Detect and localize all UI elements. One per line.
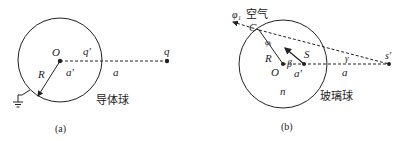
source-point xyxy=(302,62,306,66)
angle-out-label: φ₁ xyxy=(232,9,241,20)
diagram-canvas: O q' q R a' a 导体球 (a) φ₁ 空气 C φᵢ R β S γ… xyxy=(0,0,404,141)
outer-distance-label: a xyxy=(113,66,119,78)
point-label: C xyxy=(249,21,257,33)
center-label: O xyxy=(271,66,279,78)
ground-icon xyxy=(13,90,30,107)
image-point xyxy=(387,62,391,66)
outer-distance-label: a xyxy=(342,66,348,78)
gamma-label: γ xyxy=(345,53,349,63)
inner-distance-label: a' xyxy=(294,67,303,79)
body-label: 导体球 xyxy=(96,93,129,107)
inner-distance-label: a' xyxy=(66,66,75,78)
image-charge-label: q' xyxy=(83,45,92,57)
beta-label: β xyxy=(286,58,292,69)
caption-b: (b) xyxy=(281,121,293,133)
image-label: s' xyxy=(385,50,392,61)
angle-in-label: φᵢ xyxy=(265,37,272,47)
radius-label: R xyxy=(264,52,272,64)
center-label: O xyxy=(52,46,60,58)
caption-a: (a) xyxy=(55,123,66,135)
charge-label: q xyxy=(164,45,170,57)
radius-label: R xyxy=(37,68,45,80)
panel-a: O q' q R a' a 导体球 (a) xyxy=(13,18,170,135)
center-point xyxy=(281,62,285,66)
medium-label: 空气 xyxy=(246,7,268,21)
image-ray xyxy=(259,30,389,64)
index-label: n xyxy=(280,85,286,97)
body-label: 玻璃球 xyxy=(320,89,353,103)
charge-point xyxy=(165,59,169,63)
source-label: S xyxy=(304,48,310,60)
panel-b: φ₁ 空气 C φᵢ R β S γ s' O a' a n 玻璃球 (b) xyxy=(232,7,392,133)
